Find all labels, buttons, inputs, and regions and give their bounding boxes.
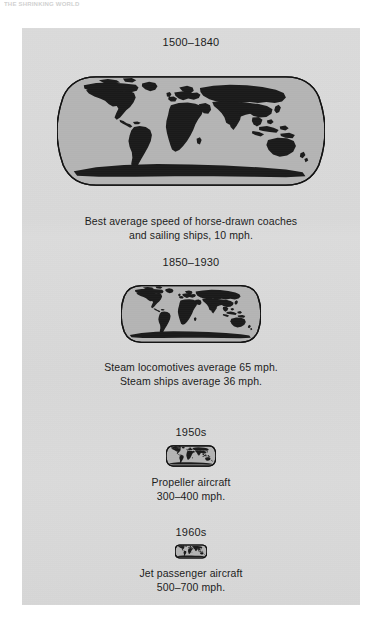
figure-section-1960s: 1960s Jet passenger aircraft 500–700 mph…: [22, 526, 360, 594]
figure-section-1850-1930: 1850–1930 Steam locomotives average 65 m…: [22, 256, 360, 388]
caption-4: Jet passenger aircraft 500–700 mph.: [22, 567, 360, 594]
world-map-small-svg: [166, 443, 216, 469]
world-map-large-svg: [57, 53, 325, 209]
era-label-4: 1960s: [22, 526, 360, 539]
caption-1: Best average speed of horse-drawn coache…: [22, 215, 360, 242]
caption-3: Propeller aircraft 300–400 mph.: [22, 476, 360, 503]
world-map-medium: [121, 273, 261, 355]
era-label-2: 1850–1930: [22, 256, 360, 269]
world-map-large: [57, 53, 325, 209]
figure-panel: 1500–1840 Best average speed of horse-dr…: [22, 28, 360, 605]
caption-2: Steam locomotives average 65 mph. Steam …: [22, 361, 360, 388]
era-label-1: 1500–1840: [22, 36, 360, 49]
world-map-tiny: [175, 543, 207, 560]
figure-section-1500-1840: 1500–1840 Best average speed of horse-dr…: [22, 36, 360, 242]
figure-section-1950s: 1950s Propeller aircraft 300–400 mph.: [22, 426, 360, 503]
world-map-tiny-svg: [175, 543, 207, 560]
running-head: THE SHRINKING WORLD: [4, 1, 79, 7]
world-map-medium-svg: [121, 273, 261, 355]
world-map-small: [166, 443, 216, 469]
era-label-3: 1950s: [22, 426, 360, 439]
